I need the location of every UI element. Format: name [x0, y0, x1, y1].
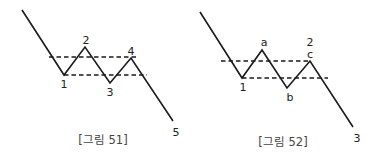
- label-2: 2: [83, 34, 90, 47]
- wave-diagrams: 1 2 3 4 5 [그림 51] 1 a b 2 c 3 [그림 52]: [0, 0, 378, 158]
- label-1: 1: [240, 81, 247, 94]
- label-5: 5: [173, 126, 180, 139]
- label-3: 3: [354, 132, 361, 145]
- label-a: a: [261, 36, 268, 49]
- label-1: 1: [61, 78, 68, 91]
- wave-line: [22, 10, 173, 121]
- label-b: b: [287, 91, 294, 104]
- label-c: c: [307, 48, 313, 61]
- caption-figure-52: [그림 52]: [258, 135, 307, 149]
- wave-line: [200, 12, 353, 127]
- label-4: 4: [128, 45, 135, 58]
- figure-51: 1 2 3 4 5 [그림 51]: [22, 10, 180, 147]
- caption-figure-51: [그림 51]: [78, 133, 127, 147]
- label-3: 3: [107, 86, 114, 99]
- figure-52: 1 a b 2 c 3 [그림 52]: [200, 12, 361, 149]
